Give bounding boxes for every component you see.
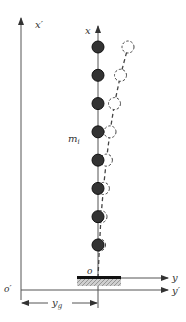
- mass-label: mi: [68, 133, 80, 146]
- structure-diagram: x′ x mi o y y′ o′ yg: [0, 0, 186, 322]
- x-prime-label: x′: [35, 19, 44, 30]
- origin-label: o: [87, 266, 93, 276]
- mass: [92, 41, 104, 53]
- mass: [92, 126, 104, 138]
- mass: [92, 154, 104, 166]
- mass: [92, 182, 104, 194]
- y-label: y: [171, 272, 178, 283]
- mass: [92, 239, 104, 251]
- mass: [92, 98, 104, 110]
- deformed-mass: [109, 98, 121, 110]
- mass: [92, 211, 104, 223]
- ground-hatch: [77, 279, 121, 286]
- deformed-mass: [115, 69, 127, 81]
- base-plate: [77, 276, 121, 279]
- y-prime-label: y′: [171, 285, 181, 296]
- origin-prime-label: o′: [4, 284, 11, 294]
- x-label: x: [85, 25, 91, 36]
- mass: [92, 69, 104, 81]
- deformed-mass: [122, 41, 134, 53]
- deformed-mass: [104, 126, 116, 138]
